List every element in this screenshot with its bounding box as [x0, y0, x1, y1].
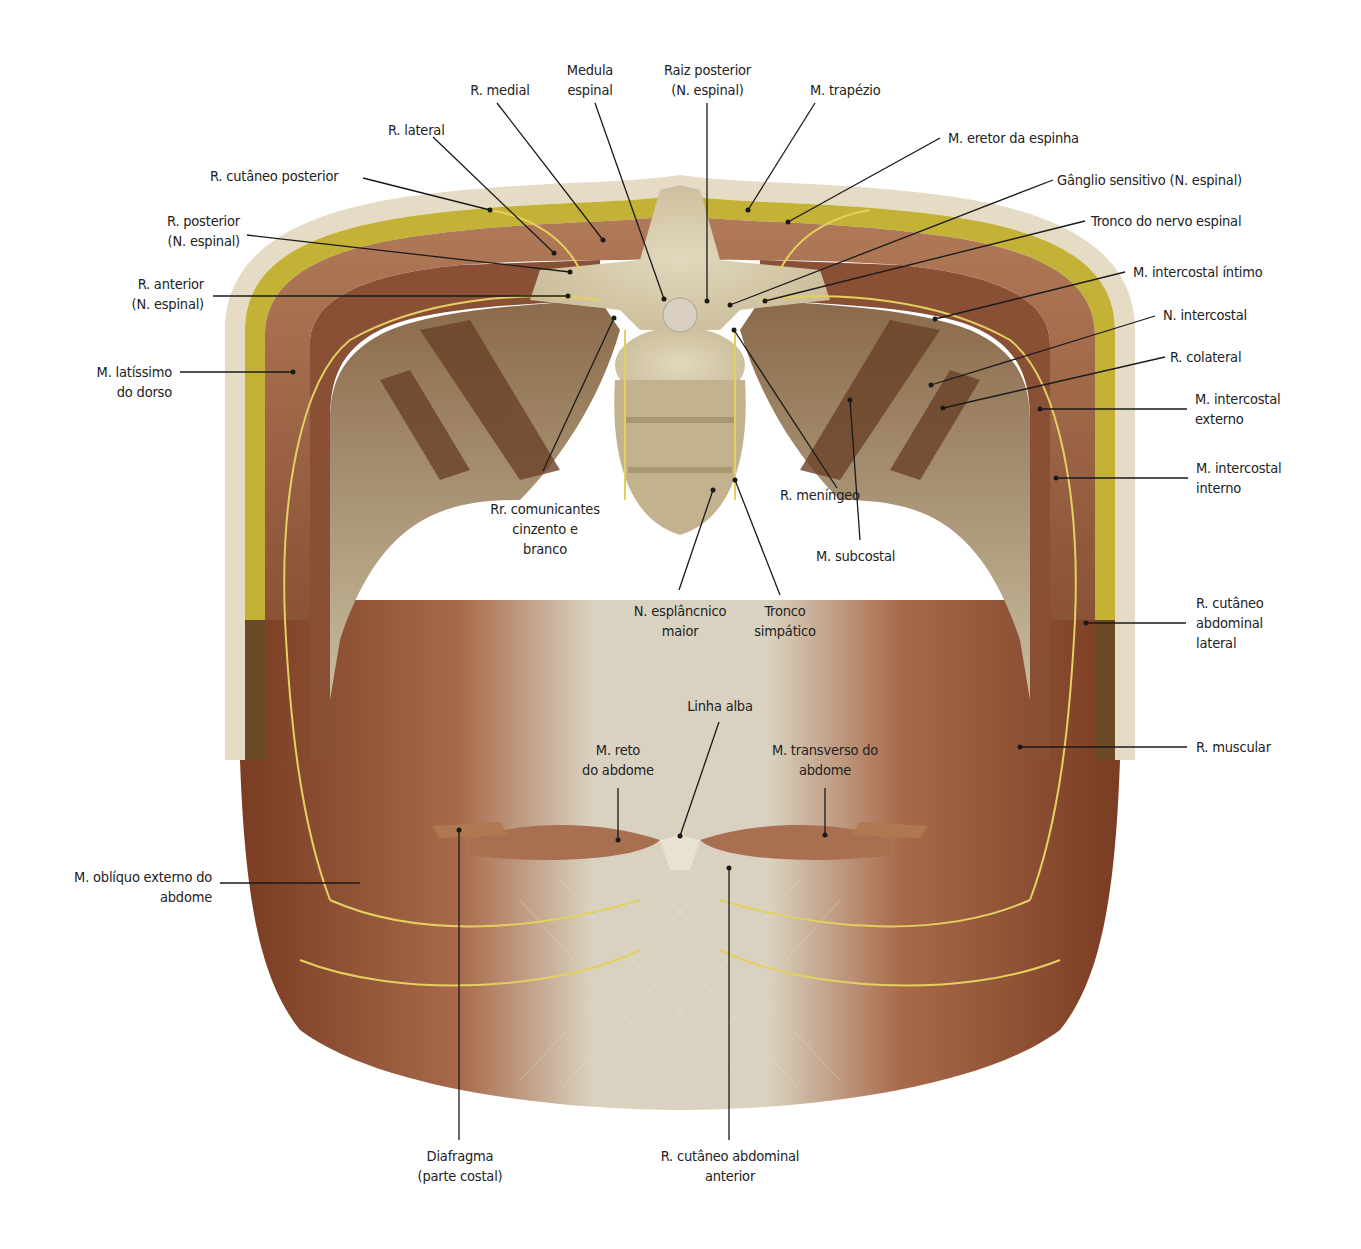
anatomy-figure: R. medial Medulaespinal Raiz posterior(N… [0, 0, 1361, 1249]
label-ganglio-sensitivo: Gânglio sensitivo (N. espinal) [1057, 170, 1242, 190]
label-r-anterior: R. anterior(N. espinal) [100, 274, 204, 314]
spinal-cord [663, 298, 697, 332]
label-r-meningeo: R. meníngeo [780, 485, 860, 505]
label-m-eretor: M. eretor da espinha [948, 128, 1079, 148]
label-m-obliquo-externo: M. oblíquo externo doabdome [40, 867, 212, 907]
label-m-subcostal: M. subcostal [816, 546, 895, 566]
label-tronco-simpatico: Troncosimpático [745, 601, 825, 641]
label-n-esplancnico: N. esplâncnicomaior [615, 601, 745, 641]
label-r-colateral: R. colateral [1170, 347, 1241, 367]
label-linha-alba: Linha alba [665, 696, 775, 716]
label-r-cutaneo-abd-anterior: R. cutâneo abdominalanterior [640, 1146, 820, 1186]
label-m-intercostal-interno: M. intercostalinterno [1196, 458, 1282, 498]
label-m-intercostal-intimo: M. intercostal íntimo [1133, 262, 1263, 282]
label-r-lateral: R. lateral [388, 120, 445, 140]
label-r-cutaneo-abd-lateral: R. cutâneoabdominallateral [1196, 593, 1264, 653]
label-m-intercostal-externo: M. intercostalexterno [1195, 389, 1281, 429]
label-diafragma: Diafragma(parte costal) [400, 1146, 520, 1186]
label-m-latissimo: M. latíssimodo dorso [60, 362, 172, 402]
label-m-trapezio: M. trapézio [810, 80, 881, 100]
label-raiz-posterior: Raiz posterior(N. espinal) [645, 60, 770, 100]
label-r-muscular: R. muscular [1196, 737, 1271, 757]
label-m-transverso: M. transverso doabdome [755, 740, 895, 780]
label-rr-comunicantes: Rr. comunicantescinzento ebranco [470, 499, 620, 559]
label-m-reto: M. retodo abdome [568, 740, 668, 780]
label-r-cutaneo-posterior: R. cutâneo posterior [210, 166, 338, 186]
label-r-medial: R. medial [455, 80, 545, 100]
label-medula-espinal: Medulaespinal [550, 60, 630, 100]
label-r-posterior: R. posterior(N. espinal) [130, 211, 240, 251]
label-tronco-nervo-espinal: Tronco do nervo espinal [1091, 211, 1241, 231]
label-n-intercostal: N. intercostal [1163, 305, 1247, 325]
